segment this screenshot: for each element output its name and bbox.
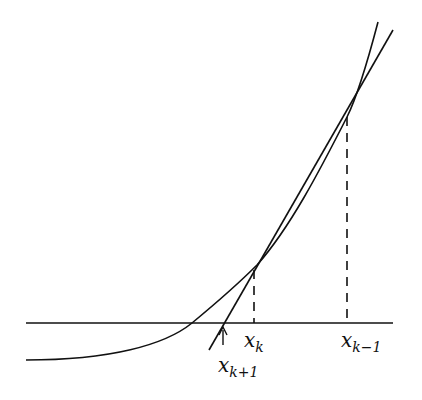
secant-method-diagram: xk xk−1 xk+1 [0,0,422,400]
label-xk-plus-1: xk+1 [218,355,258,375]
label-xk-minus-1: xk−1 [341,330,381,350]
label-xk: xk [244,330,264,350]
secant-line [209,30,393,350]
function-curve [26,22,378,360]
